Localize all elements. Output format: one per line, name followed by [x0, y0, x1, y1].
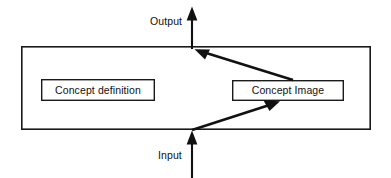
- input-label: Input: [158, 149, 182, 161]
- concept-image-label: Concept Image: [252, 84, 325, 96]
- input-to-concept-image-line: [192, 105, 271, 131]
- diagram-canvas: Concept definition Concept Image Output …: [0, 0, 391, 178]
- concept-definition-label: Concept definition: [55, 84, 141, 96]
- input-arrow-head: [187, 131, 198, 145]
- output-label: Output: [150, 15, 182, 27]
- output-arrow-head: [187, 7, 198, 21]
- concept-flow-diagram: Concept definition Concept Image Output …: [0, 0, 391, 178]
- concept-image-to-output-line: [203, 52, 293, 80]
